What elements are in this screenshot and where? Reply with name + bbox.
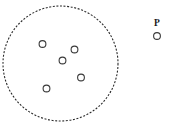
inner-point-2 bbox=[71, 46, 78, 53]
outer-point-p bbox=[154, 33, 161, 40]
inner-point-1 bbox=[39, 41, 46, 48]
inner-point-4 bbox=[78, 74, 85, 81]
inner-points-group bbox=[39, 41, 84, 92]
diagram-canvas: P bbox=[0, 0, 169, 140]
inner-point-5 bbox=[43, 85, 50, 92]
outer-point-p-label: P bbox=[154, 18, 160, 28]
diagram-svg: P bbox=[0, 0, 169, 140]
outer-points-group: P bbox=[154, 18, 161, 39]
inner-point-3 bbox=[59, 57, 66, 64]
